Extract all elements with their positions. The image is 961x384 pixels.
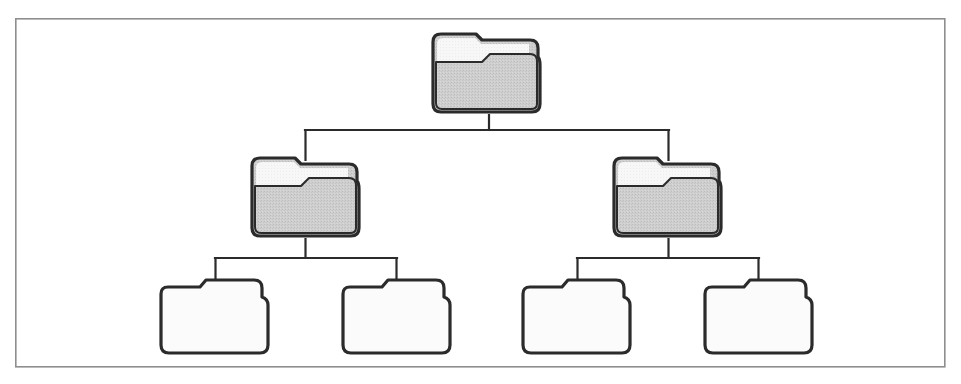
folder-icon — [343, 280, 450, 353]
folder-icon — [523, 280, 630, 353]
folder-node-root[interactable] — [433, 34, 540, 112]
folder-node-leaf-2[interactable] — [343, 280, 450, 353]
folder-icon — [161, 280, 268, 353]
folder-icon — [705, 280, 812, 353]
diagram-canvas: .f-body { fill: url(#ditherGray); stroke… — [0, 0, 961, 384]
folder-icon — [252, 158, 359, 236]
folder-icon — [433, 34, 540, 112]
folder-node-leaf-1[interactable] — [161, 280, 268, 353]
folder-node-branch-right[interactable] — [614, 158, 721, 236]
folder-node-leaf-4[interactable] — [705, 280, 812, 353]
folder-icon — [614, 158, 721, 236]
folder-hierarchy-diagram: .f-body { fill: url(#ditherGray); stroke… — [0, 0, 961, 384]
folder-node-branch-left[interactable] — [252, 158, 359, 236]
folder-node-leaf-3[interactable] — [523, 280, 630, 353]
